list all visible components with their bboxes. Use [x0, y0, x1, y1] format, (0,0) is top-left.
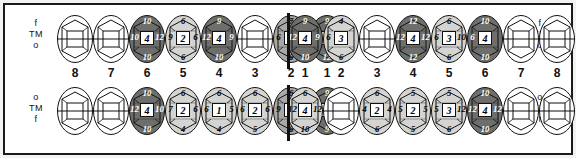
tooth-lower-left-8[interactable]	[57, 87, 93, 135]
tooth-upper-left-7[interactable]	[93, 15, 129, 63]
tooth-lower-right-2[interactable]	[323, 87, 359, 135]
legend-upper-left-line-2: o	[21, 40, 51, 51]
tooth-upper-left-4[interactable]: 9124910	[201, 15, 237, 63]
tooth-lower-left-6[interactable]: 101241010	[129, 87, 165, 135]
tooth-number-right-7: 7	[503, 66, 539, 80]
legend-upper-left: fTMo	[21, 18, 51, 51]
legend-lower-left-line-2: f	[21, 114, 51, 125]
tooth-upper-left-3[interactable]	[237, 15, 273, 63]
tooth-lower-left-5[interactable]: 67264	[165, 87, 201, 135]
periodontal-chart-frame: fTMo fTMo oTMf oTMf 10104121069266912491…	[0, 0, 576, 158]
tooth-lower-right-8[interactable]	[539, 87, 575, 135]
tooth-upper-left-8[interactable]	[57, 15, 93, 63]
tooth-upper-right-3[interactable]	[359, 15, 395, 63]
tooth-number-left-4: 4	[201, 66, 237, 80]
legend-upper-left-line-0: f	[21, 18, 51, 29]
tooth-number-right-8: 8	[539, 66, 575, 80]
tooth-number-left-3: 3	[237, 66, 273, 80]
tooth-number-left-5: 5	[165, 66, 201, 80]
tooth-lower-left-4[interactable]: 66154	[201, 87, 237, 135]
midline-upper	[287, 13, 290, 69]
tooth-upper-right-8[interactable]	[539, 15, 575, 63]
tooth-upper-right-2[interactable]: 4636	[323, 15, 359, 63]
legend-lower-left: oTMf	[21, 92, 51, 125]
chart-canvas: fTMo fTMo oTMf oTMf 10104121069266912491…	[9, 9, 567, 149]
tooth-number-right-6: 6	[467, 66, 503, 80]
tooth-number-left-8: 8	[57, 66, 93, 80]
tooth-number-right-4: 4	[395, 66, 431, 80]
tooth-upper-right-1[interactable]: 9124910	[287, 15, 323, 63]
tooth-upper-right-6[interactable]: 106410	[467, 15, 503, 63]
tooth-lower-right-6[interactable]: 101241210	[467, 87, 503, 135]
tooth-number-right-1: 1	[287, 66, 323, 80]
tooth-lower-left-7[interactable]	[93, 87, 129, 135]
legend-upper-left-line-1: TM	[21, 29, 51, 40]
tooth-lower-right-7[interactable]	[503, 87, 539, 135]
tooth-upper-right-4[interactable]: 121241212	[395, 15, 431, 63]
tooth-lower-right-4[interactable]: 55255	[395, 87, 431, 135]
tooth-upper-right-5[interactable]: 663106	[431, 15, 467, 63]
tooth-upper-right-7[interactable]	[503, 15, 539, 63]
legend-lower-left-line-1: TM	[21, 103, 51, 114]
tooth-number-right-3: 3	[359, 66, 395, 80]
tooth-lower-right-5[interactable]: 553126	[431, 87, 467, 135]
tooth-lower-right-3[interactable]: 64246	[359, 87, 395, 135]
tooth-upper-left-5[interactable]: 69266	[165, 15, 201, 63]
legend-lower-left-line-0: o	[21, 92, 51, 103]
midline-lower	[287, 85, 290, 141]
tooth-lower-right-1[interactable]: 61241210	[287, 87, 323, 135]
tooth-number-left-6: 6	[129, 66, 165, 80]
tooth-lower-left-3[interactable]: 66265	[237, 87, 273, 135]
tooth-number-right-5: 5	[431, 66, 467, 80]
tooth-number-right-2: 2	[323, 66, 359, 80]
tooth-upper-left-6[interactable]: 101041210	[129, 15, 165, 63]
tooth-number-left-7: 7	[93, 66, 129, 80]
